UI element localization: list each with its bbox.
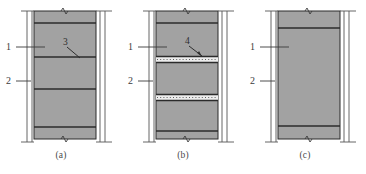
- callout-label-a-3: 3: [63, 38, 68, 48]
- panel-b-drawing: [122, 0, 244, 150]
- panel-caption-a: (a): [0, 150, 122, 160]
- reference-label-a-1: 1: [6, 42, 11, 52]
- reference-label-c-2: 2: [250, 76, 255, 86]
- panel-c-drawing: [244, 0, 366, 150]
- callout-label-b-4: 4: [185, 37, 190, 47]
- panel-caption-b: (b): [122, 150, 244, 160]
- figure-root: 1 2 3 (a): [0, 0, 366, 174]
- reference-label-a-2: 2: [6, 76, 11, 86]
- reference-label-c-1: 1: [250, 42, 255, 52]
- wall-panel-b: [156, 11, 218, 139]
- diagram-panel-a: 1 2 3 (a): [0, 0, 122, 174]
- reference-label-b-1: 1: [128, 42, 133, 52]
- diagram-panel-c: 1 2 (c): [244, 0, 366, 174]
- panel-caption-c: (c): [244, 150, 366, 160]
- panel-a-drawing: [0, 0, 122, 150]
- wall-panel-c: [278, 11, 340, 139]
- reference-label-b-2: 2: [128, 76, 133, 86]
- wall-panel-a: [34, 11, 96, 139]
- diagram-panel-b: 1 2 4 (b): [122, 0, 244, 174]
